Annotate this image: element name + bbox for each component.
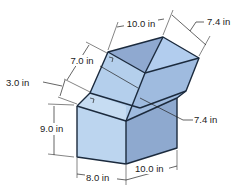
label-bottom-right: 10.0 in [135,163,164,174]
label-small-offset: 3.0 in [6,77,29,88]
label-top-depth: 7.4 in [207,16,230,27]
label-upper-slant: 7.0 in [70,55,93,66]
label-lower-height: 9.0 in [40,123,63,134]
label-bottom-left: 8.0 in [86,172,109,183]
prism-diagram: 10.0 in 7.4 in 7.0 in 3.0 in 7.4 in 9.0 … [0,0,250,193]
label-diagonal: 7.4 in [194,114,217,125]
label-top-width: 10.0 in [127,18,156,29]
